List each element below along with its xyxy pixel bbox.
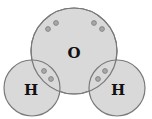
water-molecule-diagram: O H H	[0, 0, 152, 119]
oxygen-label: O	[67, 44, 80, 62]
hydrogen-right-label: H	[111, 81, 125, 99]
hydrogen-left-label: H	[24, 81, 38, 99]
